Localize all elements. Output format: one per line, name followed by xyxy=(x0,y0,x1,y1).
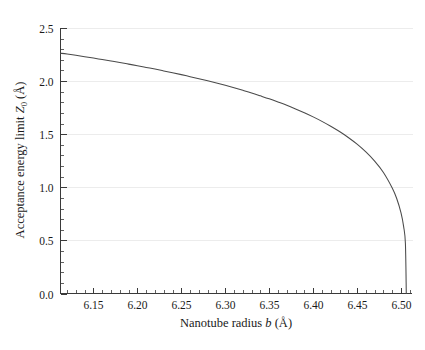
x-tick-label: 6.20 xyxy=(127,299,147,311)
x-tick-label: 6.50 xyxy=(391,299,411,311)
y-tick-label: 2.5 xyxy=(39,23,54,35)
y-tick-label: 0.5 xyxy=(39,235,54,247)
x-tick-label: 6.25 xyxy=(171,299,191,311)
y-tick-label: 1.0 xyxy=(39,182,54,194)
x-tick-label: 6.30 xyxy=(215,299,235,311)
y-tick-label: 0.0 xyxy=(39,289,54,301)
y-axis-title-unit: (Å) xyxy=(13,82,27,102)
x-tick-label: 6.45 xyxy=(347,299,367,311)
y-axis-title-prefix: Acceptance energy limit xyxy=(13,113,27,238)
x-tick-label: 6.40 xyxy=(303,299,323,311)
chart-canvas: 6.156.206.256.306.356.406.456.50 0.00.51… xyxy=(0,0,425,350)
x-axis-title-unit: (Å) xyxy=(272,316,292,330)
chart-figure: 6.156.206.256.306.356.406.456.50 0.00.51… xyxy=(0,0,425,350)
x-tick-label: 6.15 xyxy=(83,299,103,311)
x-tick-label: 6.35 xyxy=(259,299,279,311)
x-axis-title-prefix: Nanotube radius xyxy=(180,316,265,330)
x-axis-title: Nanotube radius b (Å) xyxy=(180,316,292,330)
figure-background xyxy=(0,0,425,350)
y-tick-label: 1.5 xyxy=(39,129,54,141)
y-tick-label: 2.0 xyxy=(39,76,54,88)
